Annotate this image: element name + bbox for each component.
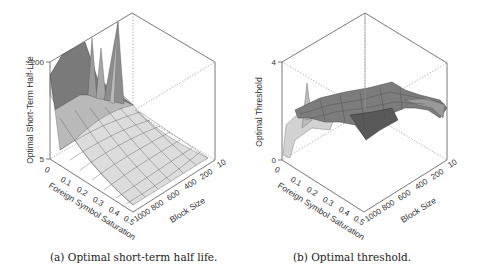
chart-b-ztick-bottom: 0 bbox=[272, 156, 277, 165]
caption-b: (b) Optimal threshold. bbox=[293, 251, 411, 263]
svg-text:1000: 1000 bbox=[132, 206, 152, 223]
svg-text:0: 0 bbox=[273, 165, 282, 175]
caption-a: (a) Optimal short-term half life. bbox=[50, 251, 217, 263]
chart-b-zlabel: Optimal Threshold bbox=[254, 77, 264, 147]
svg-text:0: 0 bbox=[43, 165, 52, 175]
chart-b: 4 0 Optimal Threshold 0 0.1 0.2 0.3 0.4 … bbox=[254, 13, 459, 242]
figure-canvas: 200 5 Optimal Short-Term Half-Life 0 0.1… bbox=[0, 0, 477, 250]
chart-b-ztick-top: 4 bbox=[272, 58, 277, 67]
svg-text:1000: 1000 bbox=[363, 206, 383, 223]
chart-a-surface bbox=[50, 22, 208, 205]
svg-text:400: 400 bbox=[413, 177, 430, 192]
svg-text:10: 10 bbox=[215, 157, 228, 170]
svg-text:10: 10 bbox=[446, 157, 459, 170]
chart-a-ztick-bottom: 5 bbox=[40, 155, 45, 164]
svg-text:200: 200 bbox=[429, 167, 446, 182]
chart-a: 200 5 Optimal Short-Term Half-Life 0 0.1… bbox=[25, 13, 228, 242]
chart-b-xticks: 0 0.1 0.2 0.3 0.4 0.5 bbox=[273, 165, 367, 228]
chart-a-zlabel: Optimal Short-Term Half-Life bbox=[25, 56, 35, 164]
chart-b-xlabel: Foreign Symbol Saturation bbox=[276, 180, 367, 242]
